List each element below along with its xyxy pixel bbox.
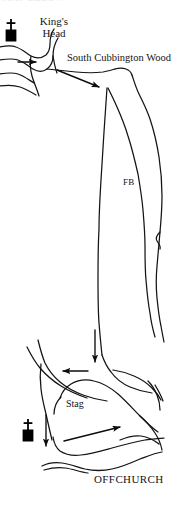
label-footbridge: FB: [123, 178, 135, 188]
label-offchurch: OFFCHURCH: [94, 474, 164, 486]
village-loop-east: [140, 416, 162, 450]
footbridge-route-west: [98, 88, 107, 355]
wood-boundary-crest: [115, 68, 132, 75]
road-west-lane-b: [0, 73, 34, 83]
footbridge-route-east: [108, 88, 155, 337]
label-kings-head-line1: King's: [40, 15, 68, 27]
label-south-cubbington-wood: South Cubbington Wood: [67, 52, 171, 63]
road-lower-nw-lane-b: [27, 347, 87, 398]
church-symbol-kings-head: [3, 18, 19, 44]
cropped-top-text: MAP BELOW: [2, 0, 65, 4]
label-stag: Stag: [66, 399, 84, 410]
label-kings-head-line2: Head: [42, 27, 65, 39]
road-west-lane-c: [0, 85, 36, 95]
arrow-east-through-offchurch: [64, 427, 120, 441]
label-kings-head: King's Head: [27, 16, 81, 40]
village-loop-southeast-spur: [120, 436, 159, 444]
village-loop-west: [54, 397, 61, 414]
sketch-map: MAP BELOW King's Head South Cubbington W…: [0, 0, 181, 505]
church-symbol-offchurch: [20, 418, 36, 444]
